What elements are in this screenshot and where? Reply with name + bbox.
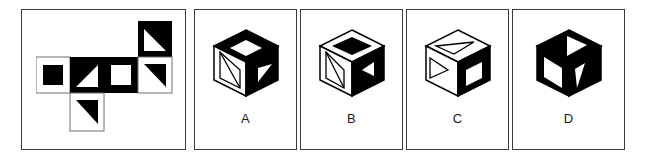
option-panel-d[interactable]: D — [512, 9, 625, 150]
cube-a — [210, 26, 282, 102]
option-label-c: C — [407, 111, 508, 126]
net-cell-r2c2 — [70, 57, 104, 93]
option-label-b: B — [301, 111, 402, 126]
cube-c-diagram — [422, 26, 494, 102]
option-panel-a[interactable]: A — [194, 9, 297, 150]
net-cell-r2c3 — [104, 57, 138, 93]
cube-b-diagram — [316, 26, 388, 102]
option-panel-b[interactable]: B — [300, 9, 403, 150]
net-cell-r3c2 — [70, 93, 104, 131]
cube-b — [316, 26, 388, 102]
option-label-d: D — [513, 111, 624, 126]
cube-c — [422, 26, 494, 102]
net-cell-r2c4 — [138, 57, 172, 93]
net-diagram — [36, 19, 174, 139]
option-panel-c[interactable]: C — [406, 9, 509, 150]
unfolded-cube-net — [36, 19, 174, 139]
net-panel — [21, 9, 186, 150]
net-cell-r2c1 — [36, 57, 70, 93]
option-label-a: A — [195, 111, 296, 126]
net-cell-r1c4 — [138, 21, 172, 57]
cube-d-diagram — [533, 26, 605, 102]
cube-d — [533, 26, 605, 102]
cube-a-diagram — [210, 26, 282, 102]
cube-folding-question: A B — [0, 0, 646, 161]
